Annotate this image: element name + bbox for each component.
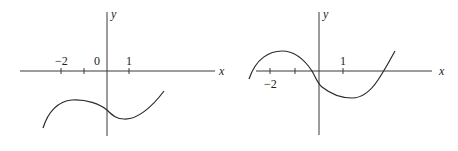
left-label-neg2: −2 bbox=[55, 54, 68, 68]
left-x-label: x bbox=[218, 64, 225, 78]
left-label-0: 0 bbox=[94, 54, 100, 68]
right-label-neg2: −2 bbox=[264, 77, 277, 91]
right-graph: −2 1 x y bbox=[249, 7, 445, 135]
left-label-1: 1 bbox=[126, 54, 132, 68]
right-x-label: x bbox=[438, 64, 445, 78]
right-label-1: 1 bbox=[340, 54, 346, 68]
right-y-label: y bbox=[322, 7, 329, 21]
left-graph: −2 0 1 x y bbox=[20, 7, 225, 136]
left-y-label: y bbox=[110, 7, 117, 21]
graphs-figure: −2 0 1 x y −2 1 x y bbox=[0, 0, 458, 151]
left-curve bbox=[43, 91, 164, 128]
